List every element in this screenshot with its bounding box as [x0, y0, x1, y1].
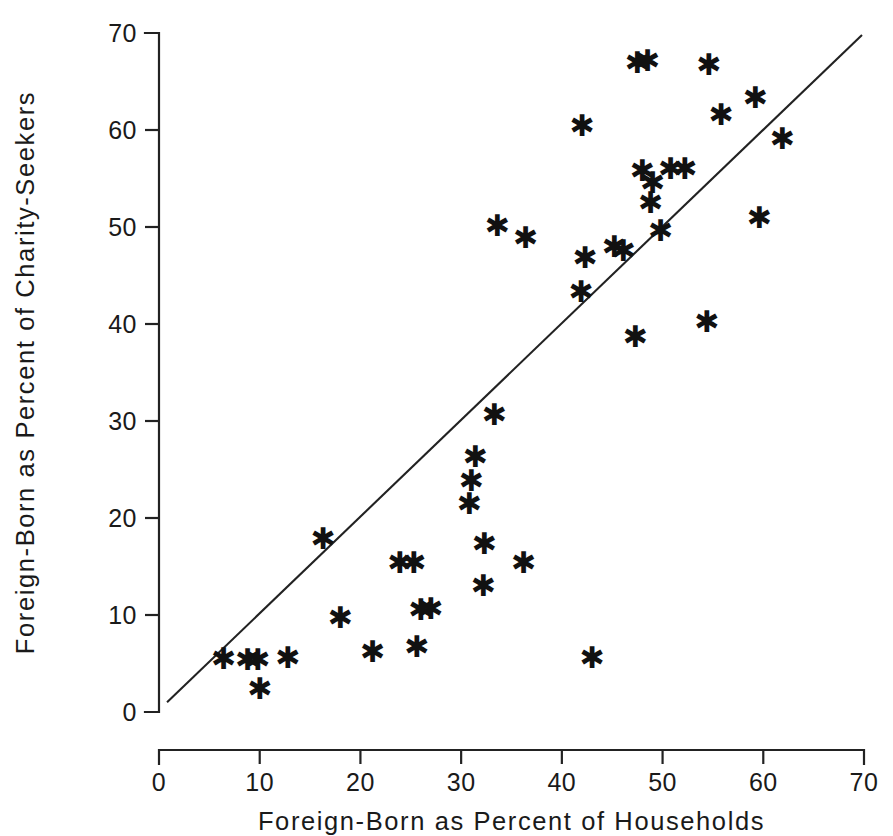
data-point: ✱ [247, 671, 272, 706]
y-axis-tick-label-40: 40 [108, 310, 137, 338]
data-point: ✱ [568, 274, 593, 309]
data-point: ✱ [275, 640, 300, 675]
data-point: ✱ [311, 521, 336, 556]
data-point: ✱ [770, 121, 795, 156]
x-axis-tick-label-50: 50 [648, 768, 677, 796]
data-point: ✱ [696, 47, 721, 82]
x-axis-tick-label-70: 70 [850, 768, 879, 796]
data-point: ✱ [743, 80, 768, 115]
y-axis-tick-label-10: 10 [108, 601, 137, 629]
data-point: ✱ [694, 304, 719, 339]
data-point: ✱ [648, 213, 673, 248]
data-point: ✱ [463, 439, 488, 474]
data-point: ✱ [572, 240, 597, 275]
data-point: ✱ [672, 151, 697, 186]
reference-diagonal-line [167, 35, 862, 702]
x-axis-tick-label-30: 30 [447, 768, 476, 796]
data-point: ✱ [418, 591, 443, 626]
data-point: ✱ [569, 108, 594, 143]
data-point: ✱ [401, 545, 426, 580]
data-point: ✱ [404, 629, 429, 664]
data-point: ✱ [747, 200, 772, 235]
x-axis-tick-label-0: 0 [152, 768, 166, 796]
data-point-group: ✱✱✱✱✱✱✱✱✱✱✱✱✱✱✱✱✱✱✱✱✱✱✱✱✱✱✱✱✱✱✱✱✱✱✱✱✱✱✱✱… [211, 43, 795, 707]
x-axis-tick-label-10: 10 [245, 768, 274, 796]
data-point: ✱ [580, 640, 605, 675]
data-point: ✱ [708, 97, 733, 132]
data-point: ✱ [611, 233, 636, 268]
x-axis-line [159, 750, 864, 764]
data-point: ✱ [485, 208, 510, 243]
data-point: ✱ [511, 545, 536, 580]
y-axis-tick-label-50: 50 [108, 213, 137, 241]
x-axis-tick-label-60: 60 [749, 768, 778, 796]
y-axis-tick-label-20: 20 [108, 504, 137, 532]
x-axis-tick-label-20: 20 [346, 768, 375, 796]
data-point: ✱ [360, 634, 385, 669]
data-point: ✱ [328, 600, 353, 635]
y-axis-tick-label-60: 60 [108, 116, 137, 144]
x-axis-tick-label-40: 40 [547, 768, 576, 796]
y-axis-tick-label-30: 30 [108, 407, 137, 435]
y-axis-tick-label-70: 70 [108, 19, 137, 47]
x-axis-title: Foreign-Born as Percent of Households [258, 807, 765, 835]
data-point: ✱ [635, 43, 660, 78]
data-point: ✱ [513, 220, 538, 255]
y-axis-title: Foreign-Born as Percent of Charity-Seeke… [11, 91, 39, 654]
data-point: ✱ [623, 319, 648, 354]
y-axis-tick-label-0: 0 [123, 698, 137, 726]
scatter-plot-figure: 010203040506070010203040506070✱✱✱✱✱✱✱✱✱✱… [0, 0, 893, 836]
y-axis-line [145, 33, 159, 712]
data-point: ✱ [471, 568, 496, 603]
data-point: ✱ [211, 641, 236, 676]
plot-canvas: 010203040506070010203040506070✱✱✱✱✱✱✱✱✱✱… [0, 0, 893, 836]
data-point: ✱ [482, 397, 507, 432]
data-point: ✱ [472, 526, 497, 561]
